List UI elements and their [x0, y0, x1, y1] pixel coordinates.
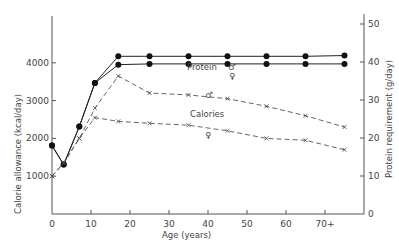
dot-marker	[49, 143, 55, 149]
y-left-tick-label: 3000	[26, 96, 49, 106]
y-right-tick-label: 40	[368, 57, 380, 67]
y-right-tick-label: 0	[368, 209, 374, 219]
dot-marker	[342, 61, 348, 67]
x-tick-label: 30	[163, 219, 175, 229]
left-axis-label: Calorie allowance (kcal/day)	[13, 94, 23, 214]
dot-marker	[147, 53, 153, 59]
chart: 010203040506070+100020003000400001020304…	[0, 0, 399, 251]
x-tick-label: 60	[280, 219, 292, 229]
y-right-tick-label: 20	[368, 133, 380, 143]
x-marker	[116, 74, 120, 78]
x-marker	[148, 91, 152, 95]
protein-female-symbol: ♀	[229, 71, 235, 81]
dot-marker	[303, 61, 309, 67]
calories-male-symbol: ♂	[205, 90, 213, 100]
dot-marker	[186, 53, 192, 59]
dot-marker	[92, 80, 98, 86]
protein-label: Protein	[187, 62, 217, 72]
x-marker	[93, 106, 97, 110]
x-tick-label: 50	[241, 219, 253, 229]
x-marker	[77, 136, 81, 140]
x-tick-label: 40	[202, 219, 214, 229]
dot-marker	[342, 53, 348, 59]
dot-marker	[264, 61, 270, 67]
dot-marker	[147, 61, 153, 67]
y-right-tick-label: 30	[368, 95, 380, 105]
x-axis-label: Age (years)	[162, 230, 211, 240]
y-right-tick-label: 10	[368, 171, 380, 181]
series-line	[52, 76, 345, 176]
y-left-tick-label: 2000	[26, 133, 49, 143]
dot-marker	[225, 53, 231, 59]
calories-female-symbol: ♀	[205, 130, 211, 140]
x-tick-label: 0	[49, 219, 55, 229]
x-tick-label: 10	[85, 219, 97, 229]
series-line	[52, 118, 345, 177]
dot-marker	[115, 62, 121, 68]
dot-marker	[264, 53, 270, 59]
dot-marker	[303, 53, 309, 59]
x-tick-label: 70+	[316, 219, 335, 229]
y-left-tick-label: 4000	[26, 58, 49, 68]
calories-label: Calories	[190, 109, 225, 119]
dot-marker	[115, 53, 121, 59]
right-axis-label: Protein requirement (g/day)	[384, 60, 394, 178]
x-tick-label: 20	[124, 219, 136, 229]
y-left-tick-label: 1000	[26, 171, 49, 181]
y-right-tick-label: 50	[368, 19, 380, 29]
dot-marker	[76, 124, 82, 130]
